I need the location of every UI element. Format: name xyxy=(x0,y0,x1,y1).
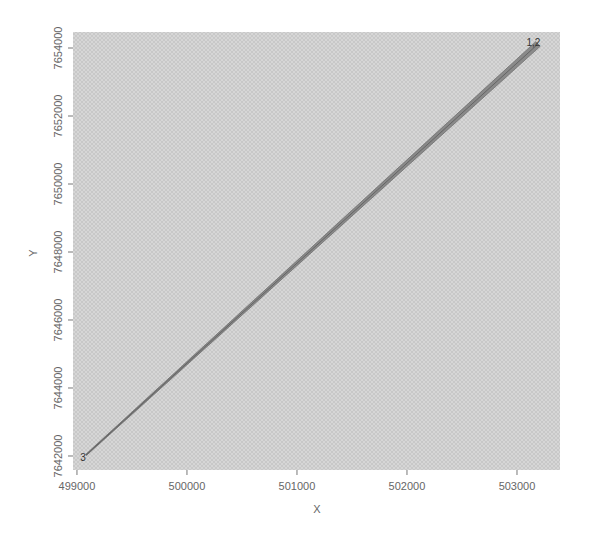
y-tick-label: 7644000 xyxy=(52,367,64,410)
y-axis: 7642000764400076460007648000765000076520… xyxy=(52,27,73,478)
x-axis: 499000500000501000502000503000 xyxy=(59,470,536,492)
x-axis-title: X xyxy=(313,503,321,515)
y-tick-label: 7652000 xyxy=(52,95,64,138)
point-label: 3 xyxy=(80,452,86,463)
y-tick-label: 7642000 xyxy=(52,435,64,478)
chart: 499000500000501000502000503000 764200076… xyxy=(0,0,592,538)
point-label: 1,2 xyxy=(527,37,541,48)
x-tick-label: 502000 xyxy=(389,480,426,492)
plot-area xyxy=(73,32,560,470)
y-tick-label: 7654000 xyxy=(52,27,64,70)
x-tick-label: 500000 xyxy=(169,480,206,492)
y-tick-label: 7646000 xyxy=(52,299,64,342)
x-tick-label: 503000 xyxy=(499,480,536,492)
x-tick-label: 499000 xyxy=(59,480,96,492)
x-tick-label: 501000 xyxy=(279,480,316,492)
y-tick-label: 7650000 xyxy=(52,163,64,206)
y-axis-title: Y xyxy=(27,249,39,257)
y-tick-label: 7648000 xyxy=(52,231,64,274)
